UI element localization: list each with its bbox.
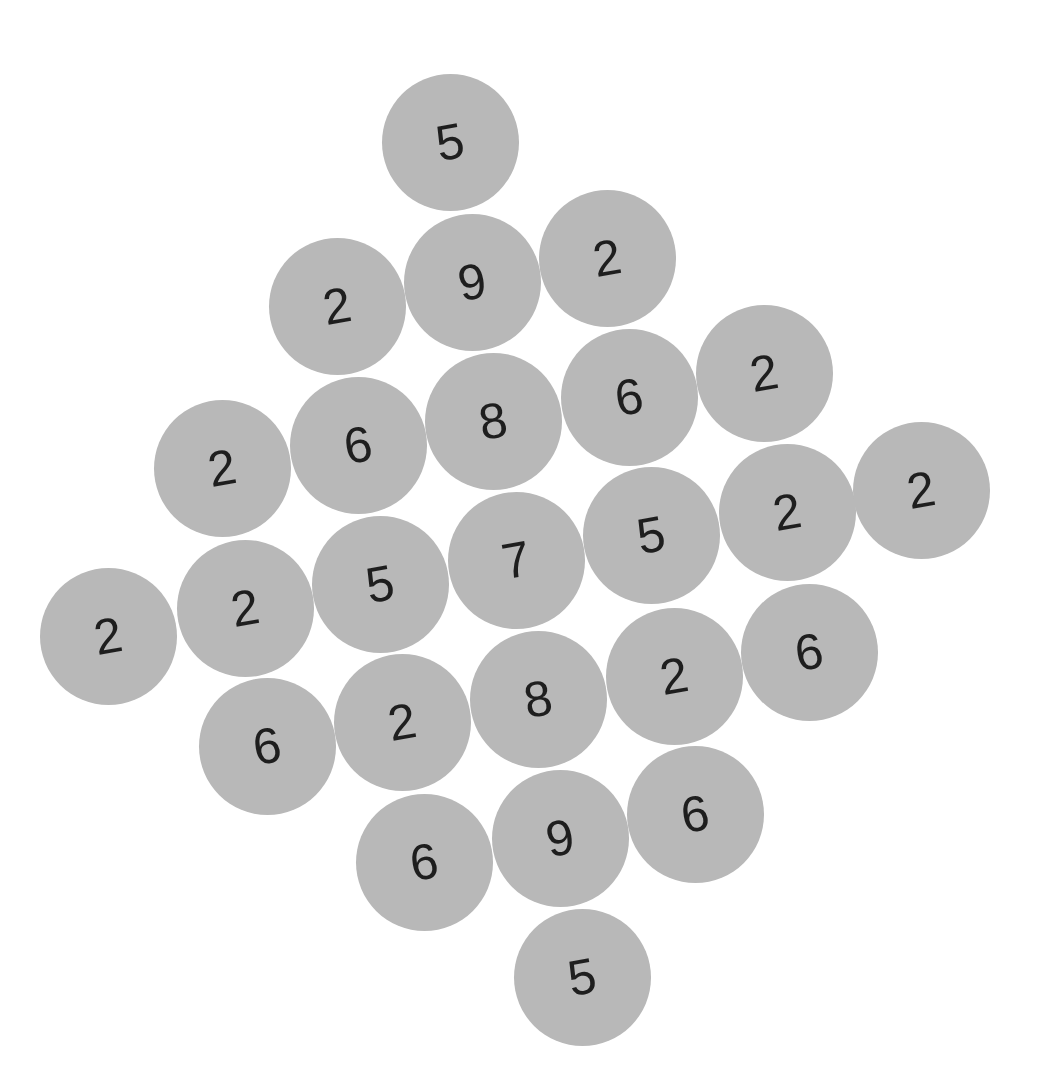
number-tile-5[interactable]: 6 xyxy=(290,377,427,514)
number-tile-21[interactable]: 6 xyxy=(356,794,493,931)
number-tile-13[interactable]: 5 xyxy=(583,467,720,604)
number-tile-3[interactable]: 2 xyxy=(539,190,676,327)
number-tile-board: 5 2 9 2 2 6 8 6 2 2 2 5 7 5 2 2 6 2 8 2 … xyxy=(0,0,1038,1086)
number-tile-23[interactable]: 6 xyxy=(627,746,764,883)
number-tile-11[interactable]: 5 xyxy=(312,516,449,653)
tile-number: 5 xyxy=(432,115,468,169)
tile-number: 6 xyxy=(340,418,376,472)
tile-number: 8 xyxy=(520,672,556,726)
number-tile-18[interactable]: 8 xyxy=(470,631,607,768)
tile-number: 9 xyxy=(542,811,578,865)
number-tile-14[interactable]: 2 xyxy=(719,444,856,581)
number-tile-1[interactable]: 2 xyxy=(269,238,406,375)
number-tile-12[interactable]: 7 xyxy=(448,492,585,629)
tile-number: 6 xyxy=(791,625,827,679)
tile-number: 2 xyxy=(903,463,939,517)
tile-number: 2 xyxy=(589,231,625,285)
number-tile-6[interactable]: 8 xyxy=(425,353,562,490)
tile-number: 6 xyxy=(406,835,442,889)
tile-number: 9 xyxy=(454,255,490,309)
number-tile-10[interactable]: 2 xyxy=(177,540,314,677)
number-tile-17[interactable]: 2 xyxy=(334,654,471,791)
number-tile-20[interactable]: 6 xyxy=(741,584,878,721)
number-tile-8[interactable]: 2 xyxy=(696,305,833,442)
tile-number: 2 xyxy=(204,441,240,495)
number-tile-2[interactable]: 9 xyxy=(404,214,541,351)
number-tile-24[interactable]: 5 xyxy=(514,909,651,1046)
number-tile-0[interactable]: 5 xyxy=(382,74,519,211)
tile-number: 2 xyxy=(746,346,782,400)
number-tile-22[interactable]: 9 xyxy=(492,770,629,907)
number-tile-9[interactable]: 2 xyxy=(40,568,177,705)
tile-number: 2 xyxy=(90,609,126,663)
number-tile-19[interactable]: 2 xyxy=(606,608,743,745)
number-tile-7[interactable]: 6 xyxy=(561,329,698,466)
tile-number: 6 xyxy=(249,719,285,773)
tile-number: 8 xyxy=(475,394,511,448)
tile-number: 2 xyxy=(227,581,263,635)
tile-number: 5 xyxy=(362,557,398,611)
tile-number: 2 xyxy=(769,485,805,539)
tile-number: 5 xyxy=(564,950,600,1004)
tile-number: 2 xyxy=(384,695,420,749)
tile-number: 6 xyxy=(677,787,713,841)
tile-number: 5 xyxy=(633,508,669,562)
tile-number: 6 xyxy=(611,370,647,424)
number-tile-16[interactable]: 6 xyxy=(199,678,336,815)
number-tile-15[interactable]: 2 xyxy=(853,422,990,559)
tile-number: 2 xyxy=(319,279,355,333)
tile-number: 7 xyxy=(498,533,534,587)
number-tile-4[interactable]: 2 xyxy=(154,400,291,537)
tile-number: 2 xyxy=(656,649,692,703)
